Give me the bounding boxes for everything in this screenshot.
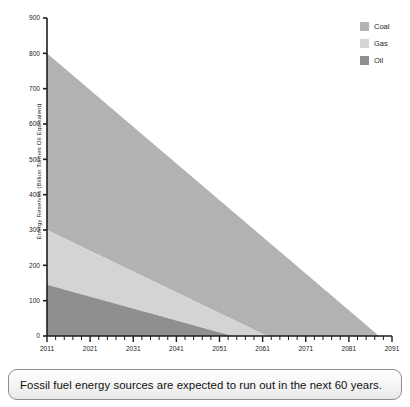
caption-text: Fossil fuel energy sources are expected …: [20, 379, 382, 391]
y-axis-title: Energy Reserves (Billion Tonnes Oil Equi…: [35, 52, 42, 292]
stacked-area-series: [47, 53, 379, 336]
caption-callout: Fossil fuel energy sources are expected …: [8, 369, 402, 400]
legend-item-oil: Oil: [360, 52, 410, 69]
svg-text:100: 100: [29, 297, 40, 304]
svg-text:2091: 2091: [385, 345, 400, 352]
fossil-fuel-reserves-chart: 0100200300400500600700800900 20112021203…: [0, 0, 410, 356]
svg-text:2011: 2011: [40, 345, 55, 352]
chart-plot-area: 0100200300400500600700800900 20112021203…: [0, 0, 410, 356]
legend-swatch-coal: [360, 22, 369, 31]
svg-text:2041: 2041: [169, 345, 184, 352]
legend-swatch-gas: [360, 39, 369, 48]
svg-text:900: 900: [29, 14, 40, 21]
svg-text:2061: 2061: [255, 345, 270, 352]
x-axis: 201120212031204120512061207120812091: [40, 336, 400, 352]
legend-label-coal: Coal: [374, 23, 389, 31]
svg-text:2021: 2021: [83, 345, 98, 352]
svg-text:2081: 2081: [342, 345, 357, 352]
svg-text:0: 0: [36, 332, 40, 339]
chart-legend: Coal Gas Oil: [360, 18, 410, 69]
svg-text:2031: 2031: [126, 345, 141, 352]
legend-swatch-oil: [360, 56, 369, 65]
legend-item-gas: Gas: [360, 35, 410, 52]
svg-text:2051: 2051: [212, 345, 227, 352]
svg-text:2071: 2071: [298, 345, 313, 352]
legend-item-coal: Coal: [360, 18, 410, 35]
legend-label-gas: Gas: [374, 40, 388, 48]
legend-label-oil: Oil: [374, 57, 383, 65]
